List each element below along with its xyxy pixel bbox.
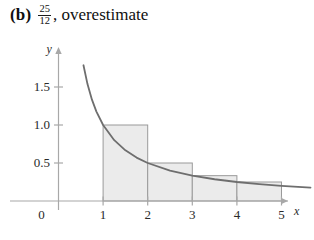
x-tick-label: 3 (177, 207, 207, 223)
x-tick-label: 1 (88, 207, 118, 223)
chart-bar (103, 125, 148, 201)
y-tick-label: 1.5 (8, 79, 50, 95)
figure-panel: (b) 25 12 , overestimate 0.51.01.5123450… (0, 0, 314, 240)
x-tick-label: 2 (133, 207, 163, 223)
chart-plot-area: 0.51.01.5123450yx (0, 0, 314, 240)
x-tick-label: 4 (222, 207, 252, 223)
y-tick-label: 0.5 (8, 155, 50, 171)
x-axis-label: x (294, 204, 299, 219)
origin-label: 0 (30, 207, 54, 223)
x-tick-label: 5 (267, 207, 297, 223)
y-tick-label: 1.0 (8, 117, 50, 133)
y-axis-label: y (47, 42, 52, 57)
y-axis-arrow-icon (55, 47, 61, 54)
chart-bar (148, 163, 193, 201)
